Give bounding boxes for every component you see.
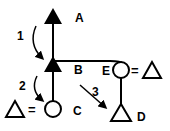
node-e-partner-triangle [143,62,161,78]
node-c-label: C [73,104,82,118]
node-b-filled-triangle [44,56,62,72]
edge-b-e [53,61,123,64]
node-c-equals: = [28,102,36,117]
node-e-label: E [102,64,110,78]
node-d-open-triangle [111,104,131,121]
node-e-equals: = [131,63,139,78]
node-a-label: A [75,11,84,25]
arrow-1 [33,26,42,58]
node-a-filled-triangle [44,8,62,24]
node-b-label: B [74,63,83,77]
arrow-2 [34,76,42,100]
pedigree-diagram: A B C = E = D 1 2 3 [0,0,170,131]
arrow-3-label: 3 [92,85,99,99]
arrow-1-label: 1 [17,29,24,43]
arrow-2-label: 2 [19,79,26,93]
node-c-partner-triangle [6,101,24,117]
node-d-label: D [137,110,146,124]
node-c-circle [45,101,61,117]
node-e-circle [113,62,129,78]
